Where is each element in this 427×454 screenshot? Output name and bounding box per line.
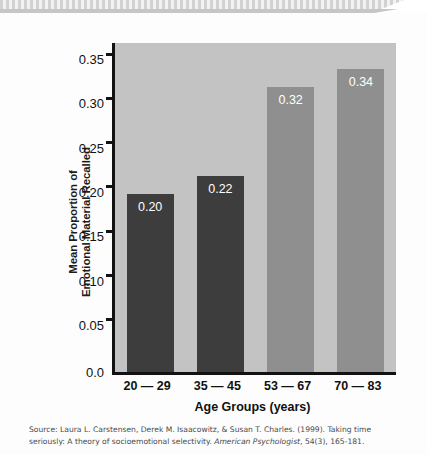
y-tick-label: 0.20 — [58, 186, 104, 199]
y-axis-tick-mark — [106, 141, 113, 144]
y-axis-tick-mark — [106, 274, 113, 277]
bar-value-label: 0.32 — [267, 93, 314, 107]
y-tick-label: 0.30 — [58, 97, 104, 110]
x-axis-title: Age Groups (years) — [112, 400, 393, 414]
bar-20-29[interactable]: 0.20 — [127, 194, 174, 372]
y-axis-tick-mark — [106, 185, 113, 188]
x-tick-label: 70 — 83 — [324, 379, 392, 393]
y-axis-tick-mark — [106, 53, 113, 56]
y-tick-label: 0.25 — [58, 142, 104, 155]
y-tick-label: 0.15 — [58, 230, 104, 243]
source-journal-name: American Psychologist — [214, 437, 300, 446]
y-tick-label: 0.10 — [58, 275, 104, 288]
y-tick-label: 0.0 — [58, 366, 104, 379]
x-axis-tick-labels: 20 — 29 35 — 45 53 — 67 70 — 83 — [112, 379, 393, 393]
bar-70-83[interactable]: 0.34 — [337, 69, 384, 372]
y-axis-tick-mark — [106, 97, 113, 100]
y-tick-label: 0.05 — [58, 319, 104, 332]
bar-chart-figure: Mean Proportion of Emotional Material Re… — [0, 13, 427, 454]
source-citation-suffix: , 54(3), 165-181. — [300, 437, 364, 446]
decorative-top-band — [0, 0, 427, 13]
x-tick-label: 35 — 45 — [183, 379, 251, 393]
bar-value-label: 0.22 — [197, 182, 244, 196]
y-axis-tick-mark — [106, 318, 113, 321]
bar-value-label: 0.20 — [127, 200, 174, 214]
bar-35-45[interactable]: 0.22 — [197, 176, 244, 372]
bar-value-label: 0.34 — [337, 75, 384, 89]
y-axis-tick-labels: 0.0 0.05 0.10 0.15 0.20 0.25 0.30 0.35 — [58, 13, 104, 454]
x-tick-label: 20 — 29 — [113, 379, 181, 393]
bar-53-67[interactable]: 0.32 — [267, 87, 314, 372]
x-tick-label: 53 — 67 — [254, 379, 322, 393]
bar-series: 0.20 0.22 0.32 0.34 — [115, 43, 396, 372]
source-citation: Source: Laura L. Carstensen, Derek M. Is… — [29, 424, 401, 447]
y-tick-label: 0.35 — [58, 53, 104, 66]
plot-area: 0.20 0.22 0.32 0.34 — [112, 43, 396, 375]
y-axis-tick-mark — [106, 230, 113, 233]
